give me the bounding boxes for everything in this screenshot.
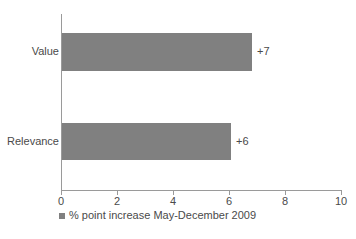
bar-chart: 0 2 4 6 8 10 Value Relevance +7 +6 % poi… <box>0 0 356 239</box>
x-axis-tick-label-6: 6 <box>214 195 244 208</box>
bar-value-label-value: +7 <box>257 45 270 58</box>
category-label-relevance: Relevance <box>7 135 59 148</box>
x-axis-tick-label-0: 0 <box>46 195 76 208</box>
x-axis-tick-label-2: 2 <box>102 195 132 208</box>
bar-relevance[interactable] <box>62 123 231 160</box>
x-axis-tick-label-8: 8 <box>270 195 300 208</box>
bar-value-label-relevance: +6 <box>236 135 249 148</box>
x-axis-line <box>61 190 342 191</box>
x-axis-tick-label-4: 4 <box>158 195 188 208</box>
category-label-value: Value <box>32 45 59 58</box>
legend-label: % point increase May-December 2009 <box>69 209 256 222</box>
bar-value[interactable] <box>62 33 252 71</box>
chart-legend: % point increase May-December 2009 <box>59 209 256 222</box>
legend-swatch-icon <box>59 213 65 219</box>
x-axis-tick-label-10: 10 <box>326 195 356 208</box>
